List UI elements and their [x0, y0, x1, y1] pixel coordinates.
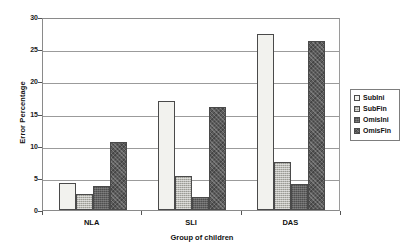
y-axis-tick-label: 10	[12, 143, 38, 150]
x-axis-title: Group of children	[0, 233, 404, 242]
gridline	[43, 116, 339, 117]
legend-item-label: SubFin	[363, 105, 387, 113]
legend-item-label: OmisIni	[363, 116, 389, 124]
bar-omisini-sli	[192, 197, 209, 210]
bar-omisfin-sli	[209, 107, 226, 210]
bar-subini-das	[257, 34, 274, 210]
legend-item-label: OmisFin	[363, 127, 391, 135]
legend-item-label: SubIni	[363, 94, 384, 102]
x-axis-category-label-nla: NLA	[62, 218, 122, 227]
plot-area	[42, 18, 340, 211]
x-axis-category-label-das: DAS	[260, 218, 320, 227]
gridline	[43, 51, 339, 52]
bar-omisfin-nla	[110, 142, 127, 210]
bar-subini-nla	[59, 183, 76, 210]
legend-swatch-icon	[354, 117, 360, 123]
chart-legend: SubIniSubFinOmisIniOmisFin	[350, 89, 400, 141]
bar-subfin-sli	[175, 176, 192, 210]
bar-subfin-das	[274, 162, 291, 210]
y-axis-tick-label: 30	[12, 14, 38, 21]
legend-swatch-icon	[354, 95, 360, 101]
y-axis-tick-label: 0	[12, 207, 38, 214]
y-axis-tick-label: 15	[12, 111, 38, 118]
bar-omisini-das	[291, 184, 308, 210]
legend-item-subfin[interactable]: SubFin	[353, 104, 397, 114]
bar-omisini-nla	[93, 186, 110, 210]
gridline	[43, 148, 339, 149]
gridline	[43, 83, 339, 84]
bar-chart: Error Percentage 051015202530 NLASLIDAS …	[0, 0, 404, 251]
legend-item-omisini[interactable]: OmisIni	[353, 115, 397, 125]
x-axis-tick	[241, 211, 242, 215]
legend-item-subini[interactable]: SubIni	[353, 93, 397, 103]
bar-subini-sli	[158, 101, 175, 210]
legend-swatch-icon	[354, 106, 360, 112]
x-axis-category-label-sli: SLI	[161, 218, 221, 227]
y-axis-tick-label: 20	[12, 78, 38, 85]
x-axis-tick	[42, 211, 43, 215]
legend-item-omisfin[interactable]: OmisFin	[353, 126, 397, 136]
y-axis-tick-label: 5	[12, 175, 38, 182]
x-axis-tick	[340, 211, 341, 215]
bar-omisfin-das	[308, 41, 325, 210]
x-axis-tick	[141, 211, 142, 215]
legend-swatch-icon	[354, 128, 360, 134]
y-axis-tick-label: 25	[12, 46, 38, 53]
bar-subfin-nla	[76, 194, 93, 210]
